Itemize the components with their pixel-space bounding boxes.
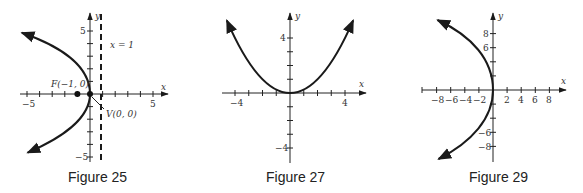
- x-tick-label-neg: −4: [230, 98, 244, 108]
- y-tick-label-8: 8: [483, 29, 489, 39]
- figure-caption: Figure 25: [68, 169, 127, 185]
- figure-caption: Figure 29: [469, 169, 528, 185]
- x-tick-label-neg: −5: [22, 99, 36, 109]
- figures-canvas: x y −5 5 5 −5 x = 1 F(−1, 0) V(0, 0) Fig…: [0, 0, 583, 193]
- y-tick-label-6: 6: [483, 43, 489, 53]
- figure-caption: Figure 27: [266, 169, 325, 185]
- svg-text:4: 4: [518, 95, 524, 105]
- focus-label: F(−1, 0): [50, 79, 89, 89]
- svg-text:8: 8: [546, 95, 552, 105]
- y-tick-label-neg6: −6: [478, 128, 492, 138]
- focus-point: [74, 91, 80, 97]
- vertex-point: [87, 91, 93, 97]
- svg-text:2: 2: [504, 95, 510, 105]
- svg-text:−2: −2: [473, 95, 486, 105]
- svg-text:6: 6: [532, 95, 538, 105]
- y-axis-label: y: [497, 11, 504, 21]
- y-tick-label-pos: 5: [80, 26, 86, 36]
- y-tick-label-neg8: −8: [478, 142, 492, 152]
- y-tick-label-neg: −5: [75, 152, 89, 162]
- vertex-label: V(0, 0): [106, 109, 137, 119]
- figure-29: x y −8 −6 −4 −2 2 4 6 8 8 6 −6 −8 Figure…: [422, 11, 566, 185]
- y-tick-label-neg: −4: [275, 143, 289, 153]
- x-axis-label: x: [561, 76, 566, 86]
- vertex-leader-line: [92, 97, 104, 109]
- x-tick-label-pos: 5: [150, 99, 156, 109]
- svg-text:−6: −6: [445, 95, 459, 105]
- x-axis-label: x: [161, 82, 166, 92]
- svg-text:−8: −8: [431, 95, 445, 105]
- y-tick-label-pos: 4: [280, 33, 286, 43]
- y-axis-label: y: [294, 11, 301, 21]
- svg-text:−4: −4: [459, 95, 473, 105]
- y-axis-label: y: [94, 11, 101, 21]
- x-tick-label-pos: 4: [342, 98, 348, 108]
- x-axis-label: x: [359, 79, 364, 89]
- directrix-label: x = 1: [110, 40, 134, 50]
- figure-25: x y −5 5 5 −5 x = 1 F(−1, 0) V(0, 0) Fig…: [20, 11, 168, 185]
- figure-27: x y −4 4 4 −4 Figure 27: [222, 11, 366, 185]
